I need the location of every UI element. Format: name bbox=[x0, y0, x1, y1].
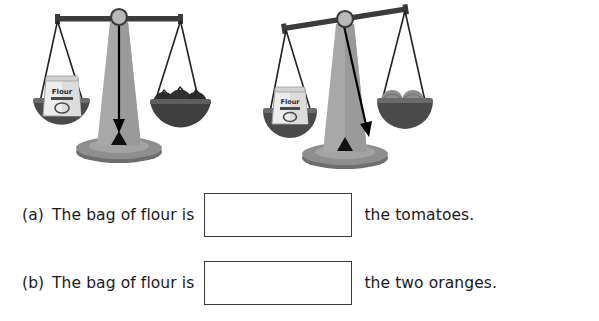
flour-bag-label: Flour bbox=[52, 88, 73, 96]
question-row-b: (b) The bag of flour is the two oranges. bbox=[0, 258, 599, 308]
scale-1-right-string-inner bbox=[155, 21, 181, 102]
scale-2-right-string-outer bbox=[405, 11, 425, 101]
flour-bag-shade-2 bbox=[290, 89, 308, 124]
flour-bag-label-2: Flour bbox=[281, 98, 301, 106]
scale-1-right-pan bbox=[150, 102, 211, 127]
flour-bag-stripe bbox=[51, 97, 73, 100]
scale-1-stand-shade bbox=[119, 22, 141, 146]
scale-1-right-pan-rim bbox=[150, 99, 211, 104]
scale-2-pivot bbox=[337, 11, 353, 27]
scale-2: Flour bbox=[263, 4, 433, 169]
question-a-text-after: the tomatoes. bbox=[352, 206, 474, 224]
worksheet-page: Flour bbox=[0, 0, 599, 321]
scale-2-right-pan-rim bbox=[377, 98, 433, 103]
question-b-text-after: the two oranges. bbox=[352, 274, 497, 292]
question-b-label: (b) bbox=[0, 274, 52, 292]
scale-1-pivot bbox=[111, 9, 127, 25]
flour-bag-top bbox=[46, 76, 78, 81]
question-b-text-before: The bag of flour is bbox=[52, 274, 204, 292]
balance-scales-illustration: Flour bbox=[0, 0, 599, 185]
scale-2-right-string-inner bbox=[382, 11, 405, 101]
scale-2-right-hanger bbox=[377, 11, 433, 129]
scale-1-flour-bag: Flour bbox=[43, 76, 81, 116]
answer-box-a[interactable] bbox=[204, 193, 352, 237]
scale-1-right-hanger bbox=[150, 21, 211, 127]
scale-2-flour-bag: Flour bbox=[272, 87, 308, 124]
question-a-text-before: The bag of flour is bbox=[52, 206, 204, 224]
question-row-a: (a) The bag of flour is the tomatoes. bbox=[0, 190, 599, 240]
flour-bag-top-2 bbox=[275, 87, 305, 92]
scale-2-right-pan bbox=[377, 101, 433, 129]
answer-box-b[interactable] bbox=[204, 261, 352, 305]
scales-svg: Flour bbox=[0, 0, 599, 185]
flour-bag-stripe-2 bbox=[280, 107, 300, 110]
scale-1: Flour bbox=[33, 9, 211, 163]
question-a-label: (a) bbox=[0, 206, 52, 224]
